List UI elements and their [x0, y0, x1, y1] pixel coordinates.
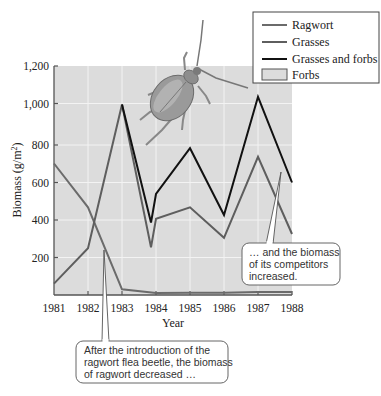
- y-tick-label: 1,000: [23, 98, 49, 111]
- y-axis-title: Biomass (g/m2): [10, 142, 24, 217]
- y-tick-label: 200: [32, 252, 50, 264]
- callout-text-line: increased.: [249, 270, 297, 282]
- x-tick-label: 1986: [213, 302, 236, 314]
- legend-label: Ragwort: [292, 18, 334, 32]
- callout-text-line: of its competitors: [249, 258, 328, 270]
- biomass-chart: 1,200 1,000 800 600 400 200 1981 1982 19…: [0, 0, 381, 396]
- legend: Ragwort Grasses Grasses and forbs Forbs: [253, 12, 379, 83]
- forbs-swatch-icon: [262, 69, 287, 80]
- x-axis-title: Year: [162, 316, 184, 330]
- y-tick-label: 800: [32, 139, 50, 151]
- x-tick-label: 1983: [111, 302, 134, 314]
- y-tick-labels: 1,200 1,000 800 600 400 200: [23, 60, 49, 264]
- y-tick-label: 600: [32, 177, 50, 189]
- legend-label: Forbs: [292, 68, 320, 82]
- legend-label: Grasses and forbs: [292, 52, 378, 66]
- x-tick-labels: 1981 1982 1983 1984 1985 1986 1987 1988: [43, 302, 304, 314]
- x-tick-label: 1984: [145, 302, 168, 314]
- x-tick-label: 1981: [43, 302, 66, 314]
- callout-text-line: of ragwort decreased …: [84, 368, 196, 380]
- legend-label: Grasses: [292, 35, 330, 49]
- x-tick-label: 1985: [179, 302, 202, 314]
- x-tick-label: 1988: [281, 302, 304, 314]
- callout-text-line: After the introduction of the: [84, 344, 210, 356]
- callout-text-line: … and the biomass: [249, 246, 339, 258]
- x-tick-label: 1982: [77, 302, 100, 314]
- y-tick-label: 400: [32, 214, 50, 226]
- callout-text-line: ragwort flea beetle, the biomass: [84, 356, 233, 368]
- x-tick-label: 1987: [247, 302, 270, 314]
- y-tick-label: 1,200: [23, 60, 49, 73]
